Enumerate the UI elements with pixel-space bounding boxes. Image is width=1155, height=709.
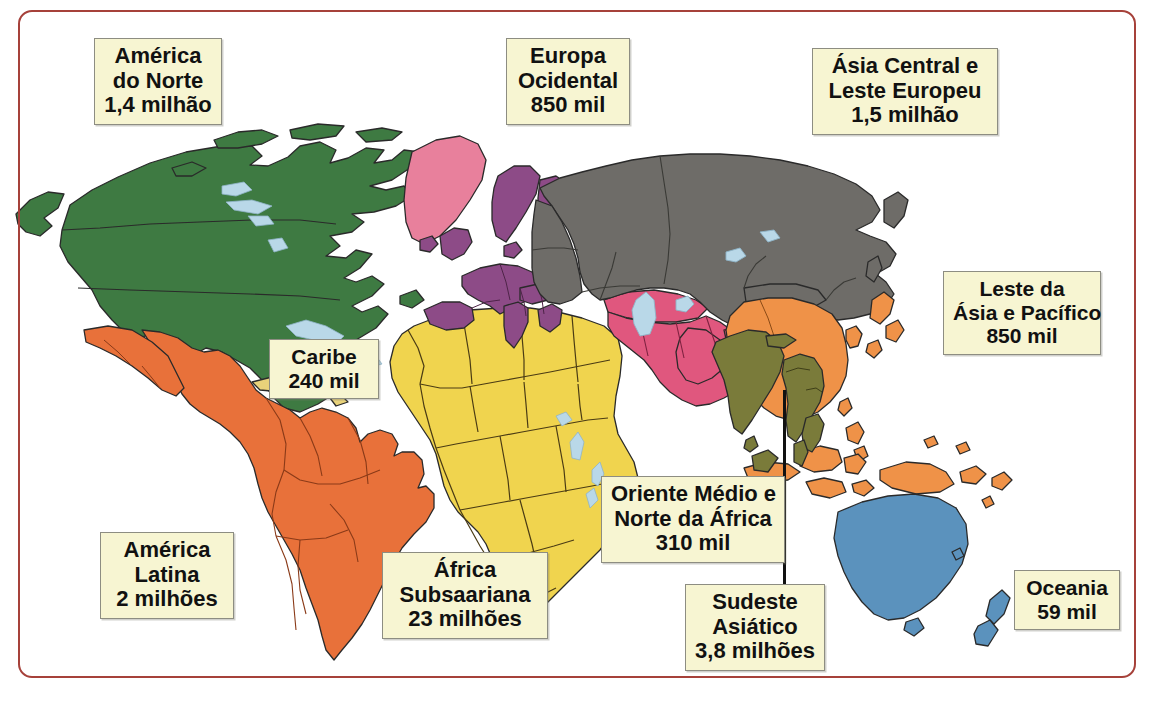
label-line: Leste da <box>953 277 1091 301</box>
label-value: 240 mil <box>279 369 369 393</box>
label-value: 59 mil <box>1024 600 1110 624</box>
label-leste-asia-pacifico: Leste da Ásia e Pacífico 850 mil <box>943 271 1101 355</box>
label-line: Oriente Médio e <box>611 482 775 507</box>
label-value: 23 milhões <box>392 607 538 632</box>
label-oceania: Oceania 59 mil <box>1014 570 1120 630</box>
infographic-root: América do Norte 1,4 milhão Europa Ocide… <box>0 0 1155 709</box>
label-line: América <box>110 538 224 563</box>
label-africa-subsaariana: África Subsaariana 23 milhões <box>382 552 548 639</box>
label-oriente-medio-norte-africa: Oriente Médio e Norte da África 310 mil <box>601 476 785 563</box>
label-line: Sudeste <box>695 590 815 615</box>
label-line: Subsaariana <box>392 583 538 608</box>
label-line: Leste Europeu <box>822 79 988 104</box>
label-value: 310 mil <box>611 531 775 556</box>
label-line: Norte da África <box>611 507 775 532</box>
label-line: Ocidental <box>516 69 620 94</box>
label-value: 850 mil <box>953 324 1091 348</box>
label-line: do Norte <box>104 69 212 94</box>
label-value: 1,4 milhão <box>104 93 212 118</box>
label-europa-ocidental: Europa Ocidental 850 mil <box>506 38 630 125</box>
label-asia-central-leste-europeu: Ásia Central e Leste Europeu 1,5 milhão <box>812 48 998 135</box>
label-value: 1,5 milhão <box>822 103 988 128</box>
label-value: 3,8 milhões <box>695 639 815 664</box>
label-line: África <box>392 558 538 583</box>
label-caribe: Caribe 240 mil <box>269 339 379 399</box>
label-value: 2 milhões <box>110 587 224 612</box>
label-line: Caribe <box>279 345 369 369</box>
label-line: Oceania <box>1024 576 1110 600</box>
label-line: Ásia Central e <box>822 54 988 79</box>
label-line: América <box>104 44 212 69</box>
label-value: 850 mil <box>516 93 620 118</box>
label-line: Ásia e Pacífico <box>953 301 1091 325</box>
label-america-do-norte: América do Norte 1,4 milhão <box>94 38 222 125</box>
label-line: Asiático <box>695 615 815 640</box>
label-line: Europa <box>516 44 620 69</box>
label-line: Latina <box>110 563 224 588</box>
label-sudeste-asiatico: Sudeste Asiático 3,8 milhões <box>685 584 825 671</box>
label-america-latina: América Latina 2 milhões <box>100 532 234 619</box>
